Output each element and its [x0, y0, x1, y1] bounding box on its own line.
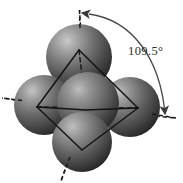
sphere-bottom — [52, 112, 112, 172]
tetrahedral-geometry-figure: 109.5° — [0, 0, 183, 183]
axis-up-tip — [80, 10, 81, 28]
molecule-diagram-canvas: 109.5° — [0, 0, 183, 183]
angle-label: 109.5° — [128, 44, 164, 58]
